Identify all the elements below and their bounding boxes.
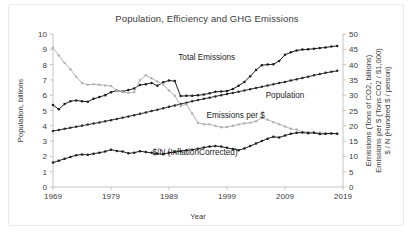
- series-marker: [284, 81, 287, 84]
- series-marker: [63, 103, 66, 106]
- series-marker: [58, 159, 61, 162]
- series-marker: [226, 93, 229, 96]
- series-marker: [226, 126, 229, 128]
- series-marker: [52, 104, 55, 107]
- y-tick-label-right: 35: [349, 76, 358, 85]
- y-tick-label-right: 5: [349, 168, 354, 177]
- series-marker: [162, 107, 165, 110]
- series-marker: [156, 80, 159, 83]
- series-annotation: Total Emissions: [178, 53, 235, 62]
- y-tick-label-left: 10: [38, 30, 47, 39]
- series-marker: [92, 98, 95, 101]
- series-marker: [98, 121, 101, 124]
- series-marker: [243, 147, 246, 150]
- series-marker: [150, 77, 153, 80]
- series-marker: [313, 47, 316, 50]
- series-marker: [87, 84, 90, 87]
- y-tick-label-left: 7: [43, 76, 48, 85]
- series-marker: [104, 120, 107, 123]
- series-marker: [162, 81, 165, 84]
- series-marker: [63, 158, 66, 161]
- series-marker: [179, 95, 182, 98]
- series-marker: [191, 112, 194, 115]
- y-tick-label-left: 5: [43, 107, 48, 116]
- series-marker: [127, 92, 129, 95]
- series-marker: [307, 48, 310, 51]
- series-marker: [156, 84, 159, 87]
- series-marker: [266, 118, 269, 121]
- series-annotation: Emissions per $: [207, 111, 266, 120]
- series-marker: [110, 148, 113, 151]
- series-marker: [116, 150, 119, 153]
- series-marker: [295, 132, 298, 135]
- series-marker: [203, 98, 206, 101]
- series-marker: [330, 71, 333, 74]
- series-marker: [98, 84, 101, 87]
- series-marker: [92, 122, 95, 125]
- series-marker: [139, 113, 142, 116]
- series-marker: [81, 153, 84, 156]
- series-marker: [319, 47, 322, 50]
- series-group: [52, 45, 339, 164]
- series-marker: [145, 83, 148, 86]
- series-marker: [69, 100, 72, 103]
- series-marker: [145, 111, 148, 114]
- series-marker: [121, 150, 124, 153]
- series-line: [53, 71, 337, 131]
- y-tick-label-left: 0: [43, 183, 48, 192]
- series-marker: [290, 128, 293, 131]
- series-marker: [110, 85, 113, 88]
- series-marker: [313, 74, 316, 77]
- series-annotation: Population: [266, 91, 305, 100]
- series-marker: [278, 60, 281, 63]
- series-marker: [52, 161, 55, 164]
- series-marker: [185, 95, 188, 98]
- series-marker: [208, 96, 211, 99]
- y-tick-label-left: 8: [43, 61, 48, 70]
- y-tick-label-left: 6: [43, 91, 48, 100]
- series-marker: [197, 94, 200, 97]
- series-marker: [214, 91, 217, 94]
- y-tick-label-right: 15: [349, 137, 358, 146]
- series-marker: [290, 79, 293, 82]
- series-marker: [139, 79, 142, 82]
- series-marker: [116, 89, 119, 92]
- series-marker: [69, 68, 72, 71]
- y-axis-title-right-line: Emissions per $ (Tons CO2 / $1,000): [374, 48, 383, 173]
- series-marker: [295, 128, 298, 131]
- series-marker: [237, 84, 240, 87]
- series-marker: [133, 151, 136, 154]
- series-marker: [87, 123, 90, 126]
- y-tick-label-right: 50: [349, 30, 358, 39]
- series-marker: [255, 120, 258, 123]
- series-marker: [121, 91, 124, 94]
- series-marker: [336, 70, 339, 73]
- series-marker: [214, 95, 217, 98]
- series-marker: [319, 73, 322, 76]
- series-marker: [278, 136, 281, 139]
- series-marker: [272, 63, 275, 66]
- chart-card: Population, Efficiency and GHG Emissions…: [8, 4, 404, 226]
- y-axis-title-right-line: $ / N (Hundred $ / person): [383, 66, 392, 155]
- series-marker: [58, 54, 61, 57]
- series-marker: [336, 133, 339, 136]
- series-marker: [255, 87, 258, 90]
- y-tick-label-left: 4: [43, 122, 48, 131]
- series-marker: [197, 99, 200, 102]
- y-tick-label-left: 1: [43, 168, 48, 177]
- series-marker: [295, 78, 298, 81]
- series-marker: [81, 82, 84, 85]
- y-tick-label-right: 0: [349, 183, 354, 192]
- y-tick-label-right: 20: [349, 122, 358, 131]
- series-marker: [243, 89, 246, 92]
- series-marker: [139, 84, 142, 87]
- series-marker: [237, 149, 240, 152]
- series-marker: [133, 114, 136, 117]
- series-marker: [92, 152, 95, 155]
- series-marker: [313, 132, 316, 135]
- series-marker: [272, 136, 275, 139]
- series-marker: [185, 103, 188, 106]
- series-marker: [168, 79, 171, 82]
- series-marker: [208, 123, 211, 126]
- x-tick-label: 2009: [276, 192, 294, 201]
